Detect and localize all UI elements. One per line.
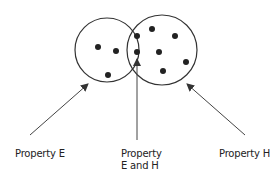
label-property-h: Property H <box>219 148 270 160</box>
label-property-eh-line2: E and H <box>121 160 162 172</box>
dot-both <box>134 49 140 55</box>
label-property-eh-line1: Property <box>121 148 162 160</box>
dot-both <box>134 33 140 39</box>
label-property-e: Property E <box>15 148 65 160</box>
dot-only-e <box>105 72 111 78</box>
dot-only-h <box>149 26 155 32</box>
dot-only-e <box>95 44 101 50</box>
dot-only-e <box>113 48 119 54</box>
dot-only-h <box>156 49 162 55</box>
label-property-e-and-h: Property E and H <box>121 148 162 172</box>
arrow-property-e <box>30 84 88 135</box>
arrow-property-h <box>187 84 245 135</box>
dot-only-h <box>172 33 178 39</box>
dot-only-h <box>183 59 189 65</box>
dot-only-h <box>160 68 166 74</box>
